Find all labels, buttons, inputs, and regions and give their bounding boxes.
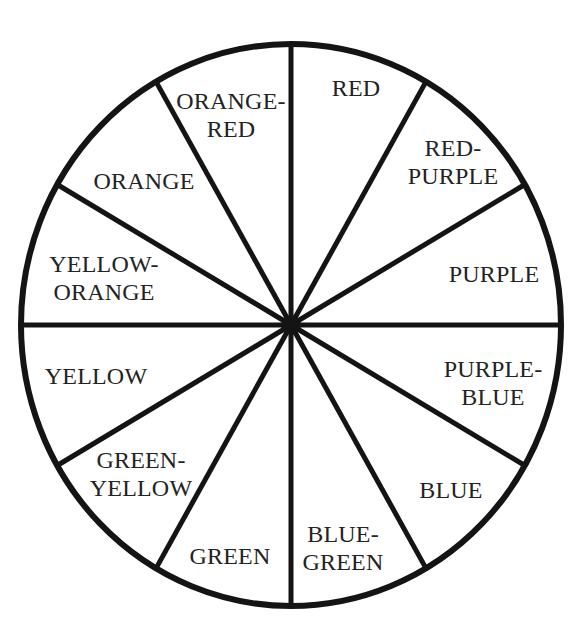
label-line: BLUE- xyxy=(303,520,384,548)
label-line: RED xyxy=(176,115,285,143)
label-line: PURPLE- xyxy=(444,355,543,383)
label-line: PURPLE xyxy=(408,162,499,190)
label-line: YELLOW- xyxy=(49,250,158,278)
label-line: ORANGE xyxy=(93,167,194,195)
label-line: BLUE xyxy=(419,476,482,504)
label-line: RED xyxy=(332,74,381,102)
label-line: BLUE xyxy=(444,383,543,411)
segment-label-purple-blue: PURPLE- BLUE xyxy=(444,355,543,411)
segment-label-red-purple: RED- PURPLE xyxy=(408,134,499,190)
segment-label-orange: ORANGE xyxy=(93,167,194,195)
segment-label-red: RED xyxy=(332,74,381,102)
label-line: GREEN xyxy=(303,548,384,576)
label-line: YELLOW xyxy=(90,474,193,502)
label-line: ORANGE- xyxy=(176,87,285,115)
label-line: ORANGE xyxy=(49,278,158,306)
segment-label-yellow-orange: YELLOW- ORANGE xyxy=(49,250,158,306)
label-line: PURPLE xyxy=(449,260,540,288)
wheel-hub xyxy=(281,315,301,335)
segment-label-purple: PURPLE xyxy=(449,260,540,288)
label-line: GREEN- xyxy=(90,446,193,474)
segment-label-blue-green: BLUE- GREEN xyxy=(303,520,384,576)
segment-label-blue: BLUE xyxy=(419,476,482,504)
color-wheel xyxy=(0,0,577,624)
label-line: RED- xyxy=(408,134,499,162)
label-line: GREEN xyxy=(190,542,271,570)
segment-label-yellow: YELLOW xyxy=(45,362,148,390)
segment-label-green: GREEN xyxy=(190,542,271,570)
segment-label-green-yellow: GREEN- YELLOW xyxy=(90,446,193,502)
label-line: YELLOW xyxy=(45,362,148,390)
segment-label-orange-red: ORANGE- RED xyxy=(176,87,285,143)
